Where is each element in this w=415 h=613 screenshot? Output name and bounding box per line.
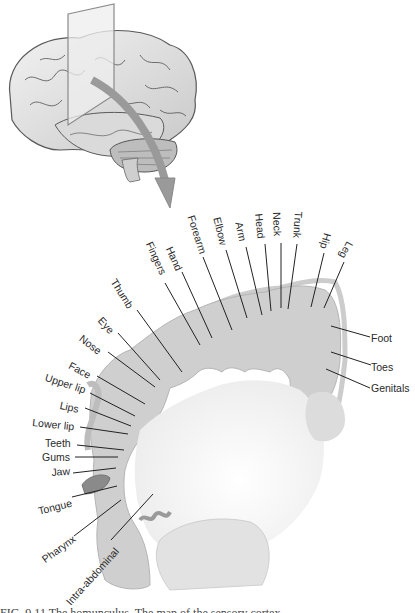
homunculus-figure: Fingers Hand Forearm Elbow Arm Head Neck… [0, 0, 415, 613]
label-toes: Toes [371, 362, 393, 373]
cortex-section-icon [82, 280, 345, 590]
label-foot: Foot [371, 333, 392, 344]
figure-caption: FIG. 9.11 The homunculus. The map of the… [0, 604, 415, 613]
label-genitals: Genitals [371, 383, 410, 394]
label-gums: Gums [42, 452, 70, 463]
label-neck: Neck [272, 212, 283, 236]
label-trunk: Trunk [292, 211, 304, 238]
label-arm: Arm [234, 221, 248, 242]
label-head: Head [254, 213, 267, 239]
label-teeth: Teeth [45, 438, 71, 449]
label-jaw: Jaw [51, 466, 70, 478]
anatomy-illustration [0, 0, 415, 613]
